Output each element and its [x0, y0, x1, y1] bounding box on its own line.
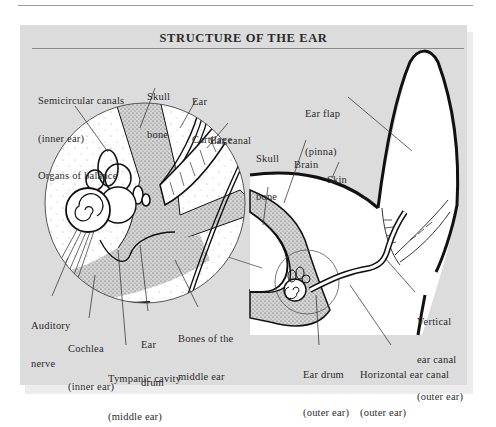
label-skull-bone-left: Skull bone — [147, 66, 170, 154]
label-horizontal-ear-canal: Horizontal ear canal (outer ear) — [360, 344, 449, 427]
label-ear-drum-right: Ear drum (outer ear) — [303, 344, 349, 427]
label-tympanic-cavity: Tympanic cavity (middle ear) — [108, 348, 181, 427]
label-ear-flap: Ear flap (pinna) — [305, 83, 340, 171]
label-auditory-nerve: Auditory nerve — [31, 295, 71, 383]
label-semicircular-canals: Semicircular canals (inner ear) Organs o… — [38, 70, 124, 195]
label-bones-of-middle-ear: Bones of the middle ear — [178, 308, 233, 396]
label-ear-canal: Ear canal — [210, 110, 251, 160]
label-skull-bone-right: Skull bone — [256, 128, 279, 216]
